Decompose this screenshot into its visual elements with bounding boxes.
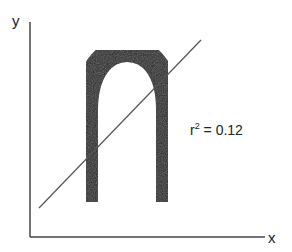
x-axis-label: x	[268, 229, 276, 246]
plot-area	[0, 0, 292, 252]
data-arch	[86, 50, 168, 202]
r-value: = 0.12	[200, 122, 243, 138]
y-axis-label: y	[12, 12, 20, 29]
r-squared-annotation: r2 = 0.12	[190, 121, 243, 138]
chart: y x r2 = 0.12	[0, 0, 292, 252]
